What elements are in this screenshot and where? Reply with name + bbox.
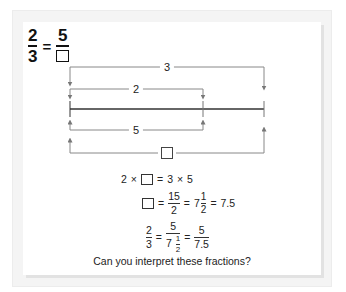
- fraction-five-over-mixed: 5 7 1 2: [166, 221, 180, 254]
- unknown-box-icon: [141, 174, 153, 185]
- denominator: 2: [176, 246, 180, 254]
- denominator: 2: [201, 205, 207, 215]
- equals-sign: =: [184, 197, 190, 209]
- times-sign: ×: [131, 173, 137, 185]
- caption: Can you interpret these fractions?: [23, 255, 321, 267]
- label-two: 2: [129, 83, 143, 95]
- equals-sign: =: [210, 197, 216, 209]
- fraction-part: 1 2: [176, 235, 180, 254]
- equation-cross-multiply: 2 × = 3 × 5: [121, 173, 193, 185]
- mixed-number: 7 1 2: [194, 192, 206, 215]
- times-sign: ×: [177, 173, 183, 185]
- mixed-denominator: 7 1 2: [166, 235, 180, 254]
- numerator: 5: [199, 225, 205, 236]
- fraction-two-thirds: 2 3: [146, 225, 152, 249]
- fraction-fifteen-halves: 15 2: [168, 191, 180, 215]
- denominator: 2: [171, 205, 177, 216]
- whole-part: 7: [166, 237, 172, 249]
- denominator: 7.5: [194, 239, 209, 250]
- numerator: 1: [201, 192, 207, 202]
- unknown-box-icon: [142, 198, 154, 209]
- fraction-five-over-decimal: 5 7.5: [194, 225, 209, 249]
- equals-sign: =: [184, 231, 190, 243]
- denominator: 3: [146, 239, 152, 250]
- numerator: 15: [168, 191, 180, 202]
- number-line: [70, 101, 264, 117]
- label-three: 3: [160, 61, 174, 73]
- equals-sign: =: [158, 197, 164, 209]
- term: 3: [167, 173, 173, 185]
- decimal-value: 7.5: [221, 197, 236, 209]
- term: 5: [187, 173, 193, 185]
- numerator: 5: [170, 221, 176, 232]
- fraction-part: 1 2: [201, 192, 207, 215]
- numerator: 2: [146, 225, 152, 236]
- label-unknown-box: [158, 147, 176, 159]
- equals-sign: =: [156, 231, 162, 243]
- equation-solve-unknown: = 15 2 = 7 1 2 = 7.5: [142, 191, 235, 215]
- label-five: 5: [129, 124, 143, 136]
- numerator: 1: [176, 235, 180, 243]
- term: 2: [121, 173, 127, 185]
- whole-part: 7: [194, 197, 200, 209]
- equals-sign: =: [157, 173, 163, 185]
- equation-equivalent-fractions: 2 3 = 5 7 1 2 = 5 7.5: [146, 221, 209, 254]
